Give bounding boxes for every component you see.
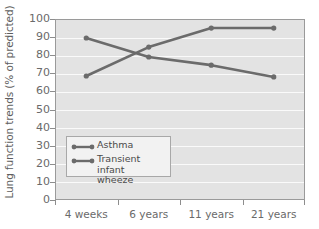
legend-entry: Transient infant wheeze <box>71 154 166 186</box>
y-tick-label: 100 <box>7 13 55 24</box>
x-tick-mark <box>118 200 119 205</box>
gridline <box>56 74 304 75</box>
legend-marker-icon <box>71 141 95 153</box>
y-tick-label: 80 <box>7 49 55 60</box>
gridline <box>56 110 304 111</box>
legend-label: Transient infant wheeze <box>97 154 166 186</box>
y-tick-label: 20 <box>7 158 55 169</box>
x-axis: 4 weeks6 years11 years21 years <box>55 200 305 228</box>
y-tick-label: 30 <box>7 140 55 151</box>
x-tick-label: 21 years <box>243 208 305 221</box>
legend-marker-icon <box>71 155 95 167</box>
x-tick-label: 4 weeks <box>55 208 117 221</box>
legend-entry: Asthma <box>71 140 166 153</box>
gridline <box>56 128 304 129</box>
gridline <box>56 56 304 57</box>
gridline <box>56 38 304 39</box>
y-tick-label: 10 <box>7 176 55 187</box>
x-axis-end-mark <box>55 200 56 205</box>
chart-figure: Lung function trends (% of predicted) 10… <box>0 0 319 229</box>
gridline <box>56 92 304 93</box>
y-axis-ticks: 1009080706050403020100 <box>0 19 55 200</box>
y-tick-label: 90 <box>7 31 55 42</box>
x-tick-mark <box>243 200 244 205</box>
chart-legend: AsthmaTransient infant wheeze <box>66 136 171 177</box>
x-tick-mark <box>180 200 181 205</box>
y-tick-label: 50 <box>7 104 55 115</box>
y-tick-label: 0 <box>7 194 55 205</box>
x-tick-label: 11 years <box>180 208 242 221</box>
y-tick-label: 70 <box>7 67 55 78</box>
legend-label: Asthma <box>97 140 133 151</box>
x-axis-end-mark <box>304 200 305 205</box>
y-tick-label: 40 <box>7 122 55 133</box>
x-tick-label: 6 years <box>118 208 180 221</box>
y-tick-label: 60 <box>7 85 55 96</box>
